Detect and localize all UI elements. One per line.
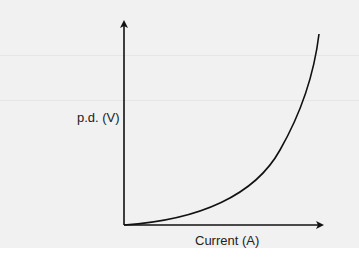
data-curve: [124, 34, 319, 225]
chart-canvas: [0, 0, 359, 262]
x-axis-label: Current (A): [195, 233, 259, 248]
y-axis-label: p.d. (V): [77, 110, 120, 125]
